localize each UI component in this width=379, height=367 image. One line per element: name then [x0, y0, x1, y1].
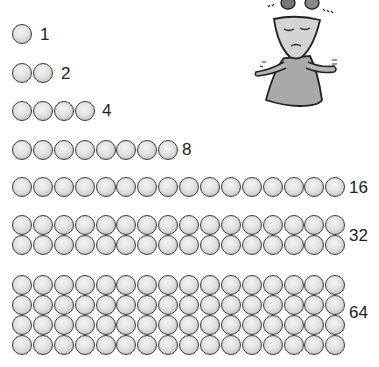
ball-icon	[304, 295, 324, 315]
ball-icon	[179, 295, 199, 315]
ball-icon	[263, 275, 283, 295]
ball-icon	[12, 101, 32, 121]
ball-icon	[137, 140, 157, 160]
ball-icon	[96, 295, 116, 315]
ball-icon	[263, 315, 283, 335]
ball-icon	[137, 275, 157, 295]
ball-icon	[137, 315, 157, 335]
ball-icon	[75, 315, 95, 335]
ball-icon	[75, 275, 95, 295]
ball-line	[12, 315, 346, 335]
ball-icon	[116, 335, 136, 355]
ball-icon	[54, 275, 74, 295]
ball-icon	[12, 295, 32, 315]
ball-icon	[33, 101, 53, 121]
ball-icon	[284, 215, 304, 235]
ball-icon	[242, 295, 262, 315]
ball-icon	[325, 235, 345, 255]
ball-icon	[304, 235, 324, 255]
ball-icon	[75, 177, 95, 197]
count-label: 32	[349, 226, 368, 246]
ball-line	[12, 335, 346, 355]
ball-icon	[325, 335, 345, 355]
ball-line	[12, 24, 33, 44]
ball-icon	[221, 215, 241, 235]
ball-icon	[54, 235, 74, 255]
ball-icon	[116, 235, 136, 255]
ball-icon	[179, 177, 199, 197]
ball-icon	[263, 215, 283, 235]
ball-line	[12, 275, 346, 295]
ball-icon	[179, 235, 199, 255]
ball-line	[12, 295, 346, 315]
ball-icon	[137, 335, 157, 355]
ball-icon	[96, 235, 116, 255]
count-label: 16	[349, 178, 368, 198]
ball-icon	[116, 140, 136, 160]
count-label: 2	[61, 64, 70, 84]
ball-icon	[221, 235, 241, 255]
ball-icon	[221, 275, 241, 295]
ball-icon	[263, 235, 283, 255]
ball-icon	[200, 275, 220, 295]
ball-icon	[116, 315, 136, 335]
ball-icon	[12, 63, 32, 83]
ball-icon	[75, 235, 95, 255]
ball-row-2	[12, 63, 54, 83]
ball-line	[12, 63, 54, 83]
ball-icon	[33, 177, 53, 197]
ball-line	[12, 235, 346, 255]
ball-icon	[12, 140, 32, 160]
ball-icon	[200, 295, 220, 315]
ball-icon	[96, 275, 116, 295]
ball-row-8	[12, 140, 179, 160]
ball-icon	[33, 235, 53, 255]
ball-icon	[179, 215, 199, 235]
ball-icon	[54, 140, 74, 160]
ball-icon	[33, 140, 53, 160]
ball-icon	[116, 295, 136, 315]
ball-icon	[325, 275, 345, 295]
ball-icon	[54, 315, 74, 335]
ball-icon	[284, 335, 304, 355]
ball-icon	[54, 101, 74, 121]
ball-icon	[284, 235, 304, 255]
ball-icon	[179, 335, 199, 355]
ball-icon	[242, 335, 262, 355]
ball-row-4	[12, 101, 96, 121]
ball-icon	[96, 140, 116, 160]
ball-icon	[200, 177, 220, 197]
ball-icon	[137, 177, 157, 197]
ball-icon	[242, 215, 262, 235]
ball-icon	[158, 140, 178, 160]
ball-icon	[54, 215, 74, 235]
ball-icon	[263, 177, 283, 197]
ball-icon	[200, 315, 220, 335]
ball-icon	[221, 315, 241, 335]
ball-icon	[116, 275, 136, 295]
ball-icon	[263, 295, 283, 315]
ball-icon	[304, 215, 324, 235]
ball-icon	[242, 177, 262, 197]
ball-row-16	[12, 177, 346, 197]
ball-icon	[116, 215, 136, 235]
ball-icon	[284, 315, 304, 335]
ball-icon	[12, 315, 32, 335]
ball-icon	[179, 315, 199, 335]
ball-icon	[284, 177, 304, 197]
ball-icon	[96, 177, 116, 197]
ball-line	[12, 177, 346, 197]
ball-icon	[33, 63, 53, 83]
count-label: 1	[40, 25, 49, 45]
ball-icon	[325, 215, 345, 235]
ball-icon	[304, 335, 324, 355]
ball-icon	[158, 177, 178, 197]
ball-icon	[200, 235, 220, 255]
ball-icon	[158, 235, 178, 255]
ball-icon	[304, 275, 324, 295]
ball-line	[12, 101, 96, 121]
ball-icon	[242, 235, 262, 255]
ball-icon	[242, 275, 262, 295]
ball-icon	[158, 315, 178, 335]
count-label: 8	[182, 140, 191, 160]
